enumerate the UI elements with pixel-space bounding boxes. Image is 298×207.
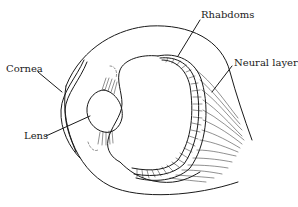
- neural-layers-leader: [212, 66, 232, 92]
- retina-middle-arc: [134, 58, 199, 176]
- lens-outline: [87, 90, 122, 132]
- neural-fibers: [170, 70, 244, 182]
- label-lens: Lens: [24, 131, 48, 141]
- rhabdom-striations: [137, 58, 202, 178]
- label-cornea: Cornea: [6, 64, 43, 74]
- cornea-leader: [38, 72, 62, 92]
- label-rhabdoms: Rhabdoms: [201, 10, 254, 20]
- eye-drawing: [0, 0, 298, 207]
- ciliary-fibers: [98, 78, 117, 145]
- iris-dash-bottom: [88, 142, 98, 151]
- eye-diagram: Rhabdoms Neural layers Cornea Lens: [0, 0, 298, 207]
- retina-inner-arc: [132, 60, 192, 170]
- rhabdoms-leader: [178, 20, 200, 56]
- label-neural-layers: Neural layers: [234, 58, 298, 68]
- retina-outer-arc: [136, 55, 206, 180]
- iris-dash-top: [110, 66, 117, 78]
- lens-leader: [46, 116, 90, 136]
